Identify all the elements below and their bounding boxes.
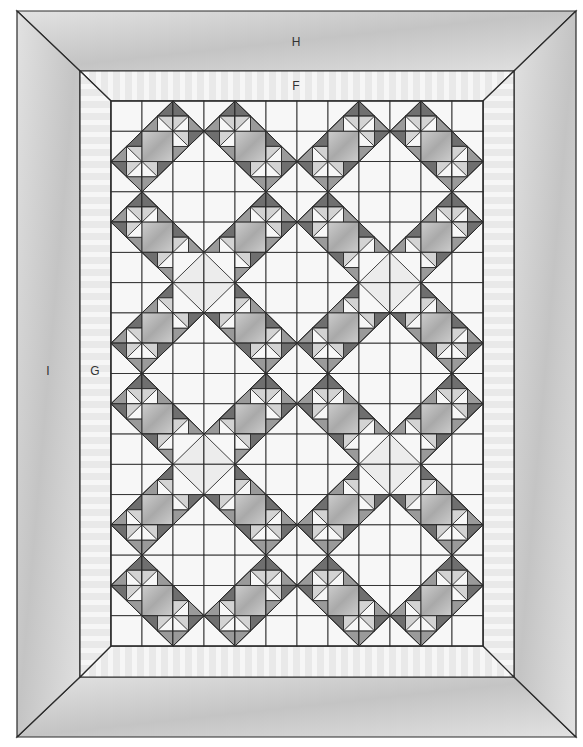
quilt-svg bbox=[0, 0, 583, 747]
label-outer-border-i: I bbox=[46, 364, 49, 378]
label-outer-border-h: H bbox=[292, 35, 301, 49]
outer-border-bottom bbox=[17, 677, 576, 737]
label-inner-border-f: F bbox=[292, 79, 299, 93]
quilt-diagram: H F G I bbox=[0, 0, 583, 747]
label-inner-border-g: G bbox=[90, 364, 99, 378]
quilt-center-grid bbox=[111, 101, 483, 646]
inner-border-right bbox=[483, 71, 514, 677]
outer-border-right bbox=[514, 11, 576, 737]
inner-border-bottom bbox=[80, 646, 514, 677]
